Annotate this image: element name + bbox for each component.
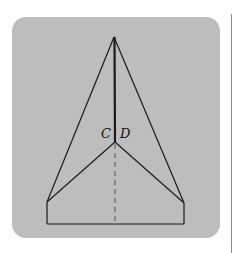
geometry-diagram: C D: [0, 0, 234, 253]
label-c: C: [101, 126, 111, 141]
edge-apex-left: [47, 37, 114, 202]
edge-center-thick: [115, 37, 116, 142]
edge-cd-right: [115, 142, 184, 203]
edge-apex-right: [114, 37, 184, 203]
label-d: D: [119, 126, 131, 141]
edge-cd-left: [47, 142, 115, 202]
